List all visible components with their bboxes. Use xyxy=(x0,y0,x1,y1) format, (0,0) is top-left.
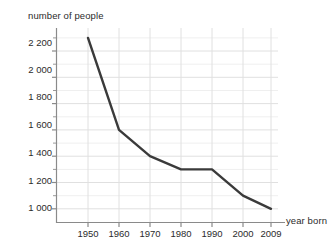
y-tick-label: 1 600 xyxy=(28,119,52,130)
x-tick-label-2000: 2000 xyxy=(232,228,253,239)
y-tick-label: 2 000 xyxy=(28,64,52,75)
gridlines xyxy=(57,28,278,222)
line-chart: number of people year born 2 200 2 000 1… xyxy=(0,0,335,252)
y-tick-label: 1 400 xyxy=(28,147,52,158)
x-tick-label-1950: 1950 xyxy=(77,228,98,239)
axis-lines xyxy=(57,28,286,223)
x-tick-label-1990: 1990 xyxy=(201,228,222,239)
y-tick-label: 1 200 xyxy=(28,175,52,186)
y-tick-label: 2 200 xyxy=(28,37,52,48)
y-tick-label: 1 000 xyxy=(28,202,52,213)
y-axis-title: number of people xyxy=(28,10,104,21)
axis-ticks xyxy=(52,38,271,227)
x-tick-label-1970: 1970 xyxy=(139,228,160,239)
data-series-line xyxy=(88,38,271,209)
x-tick-label-1960: 1960 xyxy=(108,228,129,239)
y-tick-label: 1 800 xyxy=(28,91,52,102)
x-tick-label-1980: 1980 xyxy=(170,228,191,239)
x-tick-label-2009: 2009 xyxy=(260,228,281,239)
x-axis-title: year born xyxy=(286,215,327,226)
